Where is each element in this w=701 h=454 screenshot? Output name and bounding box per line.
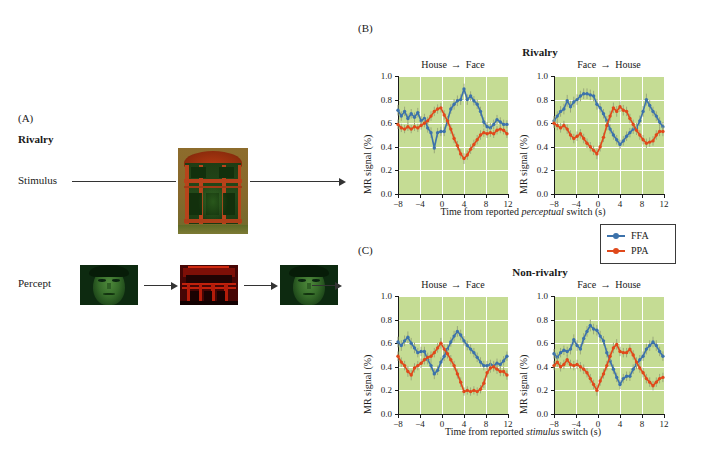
condition-from: Face xyxy=(577,59,596,70)
stimulus-image xyxy=(178,148,248,234)
x-tick xyxy=(398,415,399,418)
gridline-horizontal xyxy=(398,123,508,124)
y-tick-label: 0.4 xyxy=(526,362,548,372)
condition-to: House xyxy=(615,279,641,290)
y-tick xyxy=(551,170,554,171)
panel-c-letter: (C) xyxy=(358,244,373,256)
gridline-horizontal xyxy=(398,296,508,297)
gridline-horizontal xyxy=(398,147,508,148)
panel-b-xlabel-emph: perceptual xyxy=(521,206,563,217)
gridline-vertical xyxy=(442,76,443,194)
x-tick xyxy=(464,415,465,418)
chart-condition-title: Face→House xyxy=(548,58,670,70)
gridline-vertical xyxy=(464,76,465,194)
condition-to: House xyxy=(615,59,641,70)
x-axis xyxy=(398,414,509,415)
panel-c-xlabel-emph: stimulus xyxy=(526,426,559,437)
panel-a-title: Rivalry xyxy=(18,133,53,145)
y-tick-label: 0.4 xyxy=(370,142,392,152)
condition-from: House xyxy=(421,59,447,70)
y-axis-label: MR signal (%) xyxy=(362,135,373,194)
gridline-horizontal xyxy=(554,170,664,171)
y-tick xyxy=(395,123,398,124)
legend-dot-ffa xyxy=(613,233,619,239)
y-tick xyxy=(551,343,554,344)
y-axis xyxy=(554,296,555,414)
gridline-horizontal xyxy=(554,367,664,368)
y-tick xyxy=(551,100,554,101)
panel-a-letter: (A) xyxy=(18,112,33,124)
percept-arrow-1-line xyxy=(144,285,172,286)
y-axis-label: MR signal (%) xyxy=(362,355,373,414)
legend-entry-ffa[interactable]: FFA xyxy=(607,230,673,243)
y-tick-label: 0.6 xyxy=(526,338,548,348)
gridline-vertical xyxy=(442,296,443,414)
percept-arrow-3-line xyxy=(312,285,336,286)
y-tick-label: 0.2 xyxy=(526,165,548,175)
gridline-horizontal xyxy=(398,76,508,77)
percept-image-house xyxy=(180,265,238,305)
gridline-horizontal xyxy=(398,320,508,321)
gridline-horizontal xyxy=(398,170,508,171)
chart-condition-title: Face→House xyxy=(548,278,670,290)
y-tick-label: 1.0 xyxy=(526,71,548,81)
gridline-horizontal xyxy=(398,343,508,344)
y-tick xyxy=(395,100,398,101)
gridline-horizontal xyxy=(398,390,508,391)
y-tick xyxy=(395,296,398,297)
stimulus-row-label: Stimulus xyxy=(18,174,57,186)
condition-from: Face xyxy=(577,279,596,290)
y-tick-label: 0.0 xyxy=(526,189,548,199)
x-tick xyxy=(464,195,465,198)
x-tick xyxy=(420,415,421,418)
condition-from: House xyxy=(421,279,447,290)
y-tick-label: 0.0 xyxy=(370,409,392,419)
x-axis xyxy=(554,414,665,415)
gridline-horizontal xyxy=(554,320,664,321)
y-tick-label: 0.4 xyxy=(370,362,392,372)
x-tick xyxy=(442,195,443,198)
gridline-horizontal xyxy=(554,147,664,148)
y-axis-label: MR signal (%) xyxy=(518,355,529,414)
legend: FFA PPA xyxy=(600,224,676,264)
gridline-vertical xyxy=(664,76,665,194)
percept-arrow-2-line xyxy=(244,285,272,286)
stimulus-arrow-right-line xyxy=(250,181,340,182)
y-tick xyxy=(395,367,398,368)
y-tick-label: 0.2 xyxy=(526,385,548,395)
y-tick-label: 0.8 xyxy=(370,315,392,325)
x-tick xyxy=(442,415,443,418)
x-tick xyxy=(486,415,487,418)
y-tick-label: 0.4 xyxy=(526,142,548,152)
y-tick-label: 0.0 xyxy=(370,189,392,199)
chart-c-right: Face→House0.00.20.40.60.81.0−8−404812MR … xyxy=(524,278,684,438)
x-tick xyxy=(576,415,577,418)
y-axis xyxy=(398,296,399,414)
y-tick xyxy=(551,76,554,77)
x-tick xyxy=(664,195,665,198)
panel-b-xlabel-pre: Time from reported xyxy=(440,206,521,217)
y-tick-label: 0.6 xyxy=(370,118,392,128)
y-tick xyxy=(551,123,554,124)
right-arrow-icon: → xyxy=(451,278,462,290)
chart-b-left: House→Face0.00.20.40.60.81.0−8−404812MR … xyxy=(368,58,528,218)
y-tick xyxy=(551,390,554,391)
gridline-vertical xyxy=(464,296,465,414)
panel-b-xlabel: Time from reported perceptual switch (s) xyxy=(368,206,678,217)
panel-c-xlabel-post: switch (s) xyxy=(559,426,601,437)
legend-label-ppa: PPA xyxy=(631,245,648,256)
chart-b-right: Face→House0.00.20.40.60.81.0−8−404812MR … xyxy=(524,58,684,218)
gridline-vertical xyxy=(598,76,599,194)
condition-to: Face xyxy=(466,59,485,70)
gridline-vertical xyxy=(620,76,621,194)
y-tick xyxy=(395,170,398,171)
y-tick-label: 0.8 xyxy=(526,95,548,105)
x-tick xyxy=(398,195,399,198)
gridline-vertical xyxy=(642,296,643,414)
x-tick xyxy=(486,195,487,198)
gridline-vertical xyxy=(576,76,577,194)
gridline-vertical xyxy=(620,296,621,414)
legend-entry-ppa[interactable]: PPA xyxy=(607,245,673,258)
gridline-horizontal xyxy=(554,296,664,297)
percept-arrow-1-head xyxy=(171,282,178,290)
